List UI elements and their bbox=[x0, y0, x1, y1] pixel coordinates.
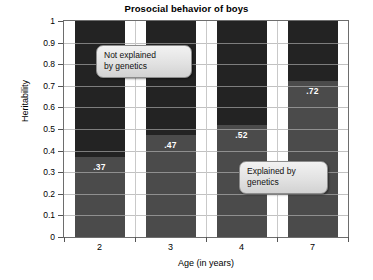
gridline-overlay bbox=[64, 129, 348, 130]
x-axis-tick-label: 2 bbox=[80, 242, 120, 253]
gridline-overlay bbox=[64, 43, 348, 44]
y-axis-tick-label: 0.4 bbox=[33, 146, 55, 156]
y-axis-tick-label: 0.6 bbox=[33, 102, 55, 112]
bar-value-label: .47 bbox=[146, 140, 196, 150]
y-axis-tick-label: 0.1 bbox=[33, 210, 55, 220]
bar-value-label: .52 bbox=[217, 130, 267, 140]
y-axis-tick-label: 0.2 bbox=[33, 189, 55, 199]
bar-segment-explained bbox=[288, 81, 338, 237]
bar-segment-not-explained bbox=[75, 21, 125, 157]
y-axis-tick-label: 0.8 bbox=[33, 59, 55, 69]
y-axis-tick-label: 1 bbox=[33, 16, 55, 26]
x-axis-tick-label: 7 bbox=[293, 242, 333, 253]
x-axis-tick-label: 4 bbox=[222, 242, 262, 253]
x-axis-tick bbox=[135, 237, 136, 242]
annotation-not-explained-by-genetics: Not explained by genetics bbox=[96, 45, 192, 78]
chart-title: Prosocial behavior of boys bbox=[0, 3, 373, 15]
bar-segment-not-explained bbox=[288, 21, 338, 81]
x-axis-title: Age (in years) bbox=[63, 258, 349, 268]
bar-value-label: .72 bbox=[288, 86, 338, 96]
bar-segment-not-explained bbox=[217, 21, 267, 125]
gridline-overlay bbox=[64, 215, 348, 216]
gridline-overlay bbox=[64, 86, 348, 87]
y-axis-tick-label: 0.3 bbox=[33, 167, 55, 177]
chart-container: Prosocial behavior of boys Heritability … bbox=[0, 0, 373, 280]
bar-value-label: .37 bbox=[75, 162, 125, 172]
x-axis-tick bbox=[277, 237, 278, 242]
x-axis-tick bbox=[206, 237, 207, 242]
gridline-overlay bbox=[64, 107, 348, 108]
bar-segment-not-explained bbox=[146, 21, 196, 135]
gridline-overlay bbox=[64, 151, 348, 152]
x-axis-tick-label: 3 bbox=[151, 242, 191, 253]
y-axis-title: Heritability bbox=[20, 56, 30, 146]
y-axis-tick-label: 0.7 bbox=[33, 81, 55, 91]
y-axis-tick-label: 0 bbox=[33, 232, 55, 242]
y-axis-tick-label: 0.9 bbox=[33, 38, 55, 48]
y-axis-tick-label: 0.5 bbox=[33, 124, 55, 134]
x-axis-tick bbox=[348, 237, 349, 242]
annotation-explained-by-genetics: Explained by genetics bbox=[239, 161, 328, 194]
x-axis-tick bbox=[64, 237, 65, 242]
